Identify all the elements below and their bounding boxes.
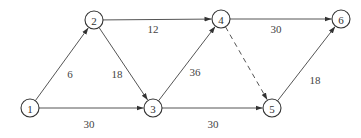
edge-2-4-arrow [103,19,212,20]
node-label: 1 [27,103,33,115]
node-6: 6 [332,10,350,28]
node-label: 3 [150,103,156,115]
edge-weight-2-3: 18 [112,68,124,80]
node-label: 5 [269,103,275,115]
edges [35,19,335,108]
edge-1-2-arrow [35,28,88,101]
edge-weight-2-4: 12 [148,23,159,35]
nodes: 123456 [21,10,350,117]
node-3: 3 [144,99,162,117]
edge-weight-1-2: 6 [67,68,73,80]
edge-labels: 630181236303018 [67,23,321,130]
edge-5-6-arrow [278,27,336,101]
node-4: 4 [212,10,230,28]
edge-2-3-arrow [99,27,148,100]
node-2: 2 [85,11,103,29]
edge-weight-3-4: 36 [190,66,202,78]
node-label: 4 [218,14,224,26]
node-5: 5 [263,99,281,117]
node-label: 6 [338,14,344,26]
edge-weight-4-6: 30 [271,23,283,35]
network-diagram: 630181236303018 123456 [0,0,361,138]
edge-weight-3-5: 30 [208,118,220,130]
node-label: 2 [91,15,97,27]
node-1: 1 [21,99,39,117]
edge-weight-1-3: 30 [84,118,96,130]
edge-weight-5-6: 18 [310,74,322,86]
edge-3-4-arrow [158,27,215,101]
edge-4-5-dashed-arrow [225,27,267,100]
